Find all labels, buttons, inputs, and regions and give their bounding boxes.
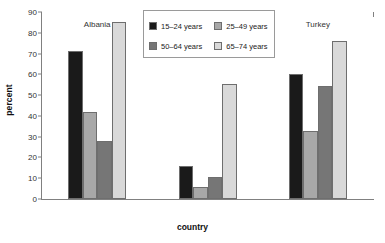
- y-axis-title: percent: [2, 0, 16, 200]
- x-axis-category-label: Turkey: [306, 20, 330, 29]
- y-axis-tick-mark: [38, 157, 42, 158]
- legend-label-2: 50–64 years: [161, 42, 202, 51]
- y-axis-tick-mark: [38, 74, 42, 75]
- bar: [208, 177, 223, 199]
- bar: [193, 187, 208, 199]
- y-axis-tick-mark: [38, 12, 42, 13]
- bar: [83, 112, 98, 199]
- legend-item-3[interactable]: 65–74 years: [214, 34, 267, 54]
- y-axis-tick-mark: [38, 136, 42, 137]
- bar: [68, 51, 83, 199]
- legend-spacer: [202, 14, 214, 34]
- bar: [289, 74, 304, 199]
- bar: [332, 41, 347, 199]
- legend: 15–24 years 25–49 years 50–64 years 65–7…: [143, 10, 275, 58]
- legend-label-3: 65–74 years: [226, 42, 267, 51]
- y-axis-tick-mark: [38, 178, 42, 179]
- y-axis-tick-mark: [38, 199, 42, 200]
- legend-row: 50–64 years 65–74 years: [149, 34, 268, 54]
- x-axis-tick-mark: [373, 12, 374, 17]
- y-axis-tick-mark: [38, 95, 42, 96]
- bar: [222, 84, 237, 199]
- bar: [112, 22, 127, 199]
- y-axis-tick-mark: [38, 32, 42, 33]
- y-axis-tick-mark: [38, 115, 42, 116]
- bar: [318, 86, 333, 199]
- legend-item-0[interactable]: 15–24 years: [149, 14, 202, 34]
- bar: [179, 166, 194, 199]
- legend-swatch-icon-2: [149, 42, 157, 50]
- legend-swatch-icon-3: [214, 42, 222, 50]
- legend-item-2[interactable]: 50–64 years: [149, 34, 202, 54]
- x-axis-title: country: [0, 222, 385, 232]
- legend-swatch-icon-1: [214, 22, 222, 30]
- legend-label-0: 15–24 years: [161, 22, 202, 31]
- legend-label-1: 25–49 years: [226, 22, 267, 31]
- bar: [97, 141, 112, 199]
- x-axis-title-text: country: [177, 222, 208, 232]
- legend-table: 15–24 years 25–49 years 50–64 years 65–7…: [149, 14, 268, 54]
- y-axis-title-text: percent: [4, 84, 14, 115]
- legend-spacer: [202, 34, 214, 54]
- legend-row: 15–24 years 25–49 years: [149, 14, 268, 34]
- x-axis-category-label: Albania: [84, 20, 111, 29]
- bar-chart: percent 0102030405060708090 AlbaniaBulga…: [0, 0, 385, 243]
- y-axis-tick-mark: [38, 53, 42, 54]
- bar: [303, 131, 318, 199]
- legend-item-1[interactable]: 25–49 years: [214, 14, 267, 34]
- x-axis-line: [41, 199, 374, 200]
- legend-swatch-icon-0: [149, 22, 157, 30]
